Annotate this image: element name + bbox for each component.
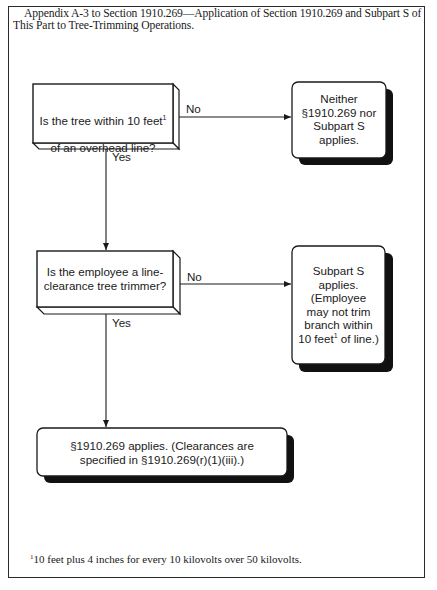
decision-text-line1: Is the tree within 10 feet xyxy=(40,114,163,127)
edge-label-q2-no: No xyxy=(187,270,202,283)
footnote-marker: 1 xyxy=(163,114,167,121)
outcome-text-tail: of line.) xyxy=(338,332,379,345)
outcome-label-1910-269-applies: §1910.269 applies. (Clearances are speci… xyxy=(37,439,287,466)
footnote: 110 feet plus 4 inches for every 10 kilo… xyxy=(30,553,302,565)
outcome-label-subpart-s-applies: Subpart S applies. (Employee may not tri… xyxy=(292,264,385,345)
footnote-text: 10 feet plus 4 inches for every 10 kilov… xyxy=(34,553,302,565)
decision-label-line-clearance-trimmer: Is the employee a line- clearance tree t… xyxy=(37,265,173,292)
edge-label-q1-no: No xyxy=(186,102,201,115)
decision-label-tree-distance: Is the tree within 10 feet1 of an overhe… xyxy=(33,100,173,154)
decision-text-line2: of an overhead line? xyxy=(50,141,155,154)
outcome-label-neither-applies: Neither §1910.269 nor Subpart S applies. xyxy=(292,92,386,146)
edge-label-q1-yes: Yes xyxy=(112,150,131,163)
edge-label-q2-yes: Yes xyxy=(112,316,131,329)
